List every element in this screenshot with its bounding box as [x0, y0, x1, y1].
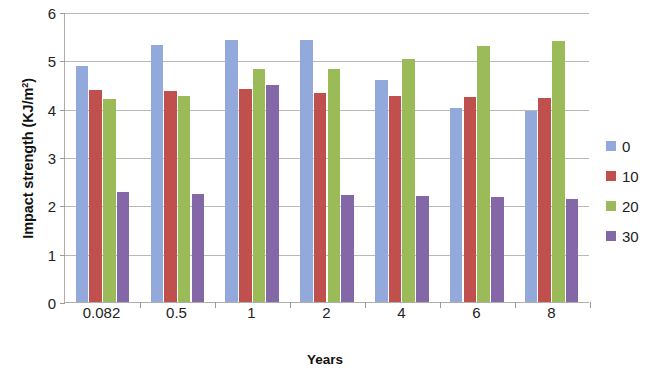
- legend-item[interactable]: 30: [606, 221, 653, 251]
- x-axis-tick-label: 8: [547, 304, 555, 321]
- x-axis-title: Years: [55, 352, 595, 367]
- y-axis-tick-label: 2: [48, 198, 56, 215]
- x-axis-tick-mark: [590, 302, 591, 308]
- y-axis-tick-label: 5: [48, 53, 56, 70]
- bar: [538, 98, 551, 302]
- y-axis-title-suffix: ): [20, 78, 36, 83]
- bar-group: [364, 13, 439, 302]
- bar: [402, 59, 415, 302]
- legend-swatch-icon: [606, 141, 616, 151]
- x-axis-tick-mark: [290, 302, 291, 308]
- x-axis-tick-label: 1: [247, 304, 255, 321]
- bar: [151, 45, 164, 302]
- bar: [375, 80, 388, 302]
- y-axis-tick-label: 0: [48, 295, 56, 312]
- legend-label: 20: [622, 198, 639, 215]
- x-axis-tick-label: 4: [397, 304, 405, 321]
- y-axis-tick-label: 1: [48, 246, 56, 263]
- x-axis-tick-label: 0.5: [166, 304, 187, 321]
- x-axis-tick-mark: [440, 302, 441, 308]
- legend-swatch-icon: [606, 171, 616, 181]
- bar-group: [65, 13, 140, 302]
- bar: [192, 194, 205, 302]
- bar: [491, 197, 504, 302]
- legend-label: 10: [622, 168, 639, 185]
- bar-group: [514, 13, 589, 302]
- bar: [117, 192, 130, 302]
- bar: [314, 93, 327, 302]
- x-axis-tick-label: 0.082: [83, 304, 121, 321]
- plot-area: 0123456: [64, 13, 589, 303]
- bar: [253, 69, 266, 302]
- legend-item[interactable]: 20: [606, 191, 653, 221]
- y-axis-title-text: Impact strength (KJ/m: [20, 88, 36, 239]
- bar: [552, 41, 565, 302]
- legend-swatch-icon: [606, 231, 616, 241]
- x-axis-tick-mark: [515, 302, 516, 308]
- bar: [328, 69, 341, 302]
- bar-group: [140, 13, 215, 302]
- legend-swatch-icon: [606, 201, 616, 211]
- bar: [266, 85, 279, 302]
- legend-label: 30: [622, 228, 639, 245]
- y-axis-tick-label: 3: [48, 150, 56, 167]
- legend-item[interactable]: 10: [606, 161, 653, 191]
- bar: [341, 195, 354, 302]
- legend-item[interactable]: 0: [606, 131, 653, 161]
- bar: [300, 40, 313, 302]
- bar: [225, 40, 238, 302]
- y-axis-title: Impact strength (KJ/m2): [20, 38, 37, 278]
- legend-label: 0: [622, 138, 630, 155]
- bar: [525, 111, 538, 302]
- legend: 0102030: [606, 131, 653, 251]
- bar-group: [290, 13, 365, 302]
- bar: [566, 199, 579, 302]
- bar: [164, 91, 177, 302]
- x-axis-tick-mark: [140, 302, 141, 308]
- bar: [178, 96, 191, 302]
- y-axis-tick-label: 4: [48, 101, 56, 118]
- bar: [416, 196, 429, 302]
- bar-group: [439, 13, 514, 302]
- y-axis-tick-label: 6: [48, 5, 56, 22]
- bar: [450, 108, 463, 302]
- bar-groups: [65, 13, 589, 302]
- bar: [76, 66, 89, 302]
- y-axis-tick-mark: [60, 303, 65, 304]
- bar: [389, 96, 402, 302]
- y-axis-title-superscript: 2: [20, 83, 30, 88]
- x-axis-tick-mark: [365, 302, 366, 308]
- bar: [89, 90, 102, 302]
- bar: [103, 99, 116, 302]
- x-axis-tick-label: 2: [322, 304, 330, 321]
- impact-strength-bar-chart: Impact strength (KJ/m2) 0123456 0.0820.5…: [0, 0, 653, 380]
- x-axis-tick-mark: [215, 302, 216, 308]
- bar-group: [215, 13, 290, 302]
- bar: [477, 46, 490, 302]
- bar: [464, 97, 477, 302]
- bar: [239, 89, 252, 302]
- x-axis-tick-label: 6: [472, 304, 480, 321]
